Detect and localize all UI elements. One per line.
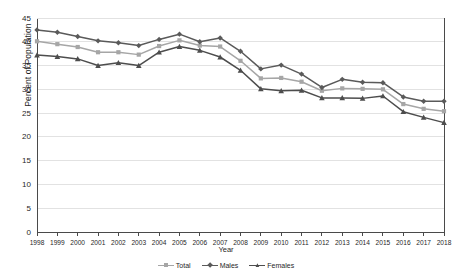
gridlines xyxy=(37,18,444,208)
svg-text:35: 35 xyxy=(22,61,31,70)
svg-text:30: 30 xyxy=(22,85,31,94)
legend-item-females[interactable]: Females xyxy=(249,262,294,269)
legend-item-total[interactable]: Total xyxy=(158,262,191,269)
legend-swatch-total-icon xyxy=(158,262,174,269)
svg-text:5: 5 xyxy=(27,204,32,213)
svg-text:0: 0 xyxy=(27,228,32,237)
chart-legend: Total Males Females xyxy=(0,262,452,269)
legend-swatch-males-icon xyxy=(202,262,218,269)
legend-item-males[interactable]: Males xyxy=(202,262,239,269)
legend-label-females: Females xyxy=(267,262,294,269)
chart-container: Percent of Population 051015202530354045… xyxy=(0,0,452,280)
svg-text:40: 40 xyxy=(22,37,31,46)
svg-text:10: 10 xyxy=(22,180,31,189)
svg-text:25: 25 xyxy=(22,109,31,118)
legend-swatch-females-icon xyxy=(249,262,265,269)
svg-text:15: 15 xyxy=(22,156,31,165)
y-axis-tick-labels: 051015202530354045 xyxy=(22,14,31,237)
legend-label-males: Males xyxy=(220,262,239,269)
x-axis-ticks xyxy=(37,232,444,236)
svg-text:20: 20 xyxy=(22,132,31,141)
svg-text:45: 45 xyxy=(22,14,31,23)
chart-plot-area: 051015202530354045 199819992000200120022… xyxy=(0,0,452,245)
x-axis-title: Year xyxy=(0,245,452,254)
legend-label-total: Total xyxy=(176,262,191,269)
